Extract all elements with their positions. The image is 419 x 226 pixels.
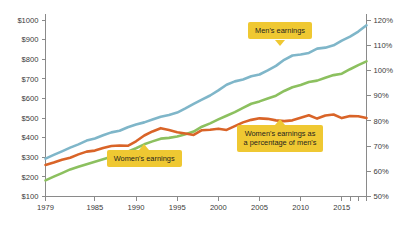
x-axis-tick-label: 1995	[169, 203, 186, 212]
right-axis-tick-label: 90%	[374, 91, 389, 100]
x-axis-tick-label: 2005	[251, 203, 268, 212]
x-axis-tick-label: 1979	[37, 203, 54, 212]
left-axis-tick-label: $500	[22, 114, 39, 123]
annotation-percentage-label-line2: a percentage of men's	[244, 138, 317, 148]
annotation-mens-earnings-pointer-icon	[275, 40, 285, 46]
chart-container: $100$200$300$400$500$600$700$800$900$100…	[0, 0, 419, 226]
right-axis-tick-label: 100%	[374, 66, 394, 75]
x-axis-tick-label: 1990	[128, 203, 145, 212]
right-axis-tick-label: 80%	[374, 117, 389, 126]
series-lines	[46, 25, 367, 180]
left-axis-tick-label: $400	[22, 133, 39, 142]
annotation-womens-earnings: Women's earnings	[107, 150, 182, 168]
right-axis-tick-label: 60%	[374, 167, 389, 176]
line-chart-svg: $100$200$300$400$500$600$700$800$900$100…	[0, 0, 419, 226]
right-axis-tick-label: 50%	[374, 192, 389, 201]
annotation-mens-earnings: Men's earnings	[248, 22, 312, 40]
left-axis-tick-label: $300	[22, 153, 39, 162]
left-axis: $100$200$300$400$500$600$700$800$900$100…	[17, 14, 45, 201]
right-axis-tick-label: 70%	[374, 142, 389, 151]
left-axis-tick-label: $100	[22, 192, 39, 201]
left-axis-tick-label: $700	[22, 75, 39, 84]
annotation-womens-earnings-pointer-icon	[139, 144, 149, 150]
left-axis-tick-label: $600	[22, 94, 39, 103]
annotation-percentage-label-line1: Women's earnings as	[244, 129, 317, 139]
x-axis: 19791985199019952000200520102015	[37, 197, 366, 212]
right-axis: 50%60%70%80%90%100%110%120%	[367, 14, 394, 201]
annotation-percentage: Women's earnings as a percentage of men'…	[237, 125, 324, 152]
x-axis-tick-label: 2000	[210, 203, 227, 212]
x-axis-tick-label: 2015	[333, 203, 350, 212]
annotation-percentage-pointer-icon	[275, 119, 285, 125]
right-axis-tick-label: 120%	[374, 16, 394, 25]
left-axis-tick-label: $1000	[17, 16, 38, 25]
annotation-mens-earnings-label: Men's earnings	[255, 26, 305, 35]
x-axis-tick-label: 1985	[86, 203, 103, 212]
left-axis-tick-label: $800	[22, 55, 39, 64]
right-axis-tick-label: 110%	[374, 41, 393, 50]
x-axis-tick-label: 2010	[292, 203, 309, 212]
left-axis-tick-label: $200	[22, 173, 39, 182]
left-axis-tick-label: $900	[22, 35, 39, 44]
series-line-women-s-earnings	[46, 61, 367, 180]
annotation-womens-earnings-label: Women's earnings	[114, 154, 175, 163]
